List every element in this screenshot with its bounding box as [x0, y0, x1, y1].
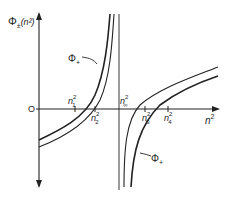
- leader-lower: [140, 153, 151, 156]
- curve-left-inner: [39, 14, 110, 140]
- origin-label: O: [28, 104, 35, 114]
- y-axis-down-arrow-icon: [36, 180, 42, 188]
- curve-label-phi-plus-lower: Φ+: [151, 153, 163, 166]
- curve-right-outer: [131, 76, 218, 187]
- root-label-ninf: n2∞: [120, 94, 129, 108]
- curve-label-phi-plus-upper: Φ+: [68, 53, 80, 66]
- y-axis-label: Φ±(n²): [8, 15, 35, 29]
- root-label-n4: n24: [164, 111, 173, 125]
- curve-right-inner: [124, 67, 218, 187]
- y-axis: [36, 12, 42, 188]
- diagram-canvas: Φ±(n²) O n2 Φ+ Φ+ n21 n22 n2∞ n23 n24: [0, 0, 237, 199]
- phi-dispersion-diagram: Φ±(n²) O n2 Φ+ Φ+ n21 n22 n2∞ n23 n24: [0, 0, 237, 199]
- curve-left-outer: [39, 14, 114, 147]
- x-axis-label: n2: [205, 113, 215, 126]
- root-label-n1: n21: [68, 94, 77, 108]
- y-axis-up-arrow-icon: [36, 12, 42, 20]
- x-axis: [36, 106, 220, 112]
- leader-upper: [82, 57, 97, 64]
- root-label-n2: n22: [91, 111, 100, 125]
- x-axis-arrow-icon: [212, 106, 220, 112]
